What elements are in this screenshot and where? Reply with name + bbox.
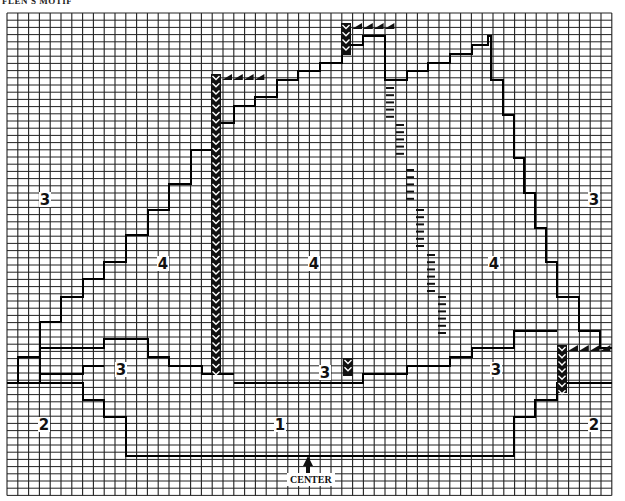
zone-number: 3 <box>491 361 501 379</box>
zone-number: 4 <box>158 255 168 273</box>
grid-chart: 34443333212 <box>0 0 625 501</box>
zone-number: 1 <box>275 416 285 434</box>
zone-number: 2 <box>39 416 49 434</box>
zone-number: 3 <box>40 191 50 209</box>
center-label: CENTER <box>287 473 335 486</box>
zone-labels: 34443333212 <box>38 191 600 434</box>
zone-number: 3 <box>116 361 126 379</box>
zone-number: 2 <box>589 416 599 434</box>
zone-number: 4 <box>309 255 319 273</box>
zone-number: 3 <box>320 364 330 382</box>
zone-number: 4 <box>489 255 499 273</box>
zone-number: 3 <box>589 191 599 209</box>
stitch-patterns <box>211 23 610 394</box>
